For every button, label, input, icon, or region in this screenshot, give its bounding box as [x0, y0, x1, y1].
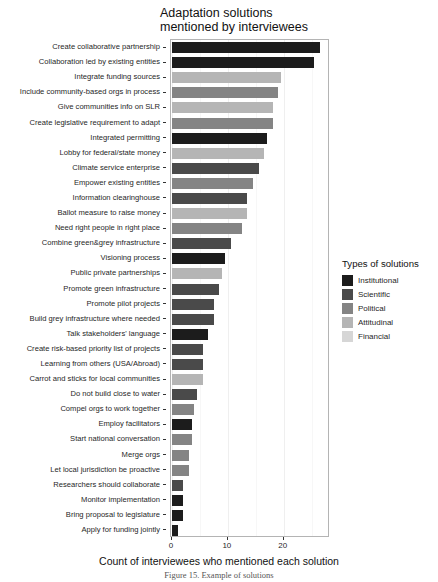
y-axis-tick-label: Create risk-based priority list of proje… [27, 344, 160, 353]
y-axis-tick-mark [163, 363, 166, 364]
bar [172, 404, 194, 415]
y-axis-tick-mark [163, 529, 166, 530]
legend-item: Political [342, 302, 436, 315]
legend-title: Types of solutions [342, 258, 436, 269]
y-axis-tick-mark [163, 243, 166, 244]
y-axis-tick-label: Researchers should collaborate [53, 480, 160, 489]
x-axis-tick-mark [227, 537, 228, 540]
x-axis-tick-label: 20 [278, 541, 287, 550]
y-axis-tick-mark [163, 213, 166, 214]
y-axis-tick-mark [163, 379, 166, 380]
bar [172, 133, 267, 144]
bar [172, 374, 203, 385]
bar [172, 87, 278, 98]
y-axis-tick-label: Need right people in right place [55, 223, 160, 232]
y-axis-tick-label: Include community-based orgs in process [20, 87, 160, 96]
y-axis-tick-label: Lobby for federal/state money [60, 148, 160, 157]
legend-swatch [342, 275, 353, 286]
y-axis-tick-mark [163, 348, 166, 349]
y-axis-tick-label: Monitor implementation [81, 495, 160, 504]
y-axis-tick-mark [163, 92, 166, 93]
chart-title: Adaptation solutions mentioned by interv… [160, 6, 390, 34]
bar [172, 525, 178, 536]
y-axis-tick-label: Build grey infrastructure where needed [30, 314, 160, 323]
legend-item: Attitudinal [342, 316, 436, 329]
legend-label: Attitudinal [358, 318, 393, 327]
y-axis-tick-mark [163, 514, 166, 515]
bar [172, 268, 222, 279]
y-axis-tick-label: Create collaborative partnership [52, 42, 160, 51]
legend-item: Financial [342, 330, 436, 343]
y-axis-tick-label: Talk stakeholders' language [67, 329, 160, 338]
y-axis-tick-label: Learning from others (USA/Abroad) [41, 359, 160, 368]
plot-panel [170, 39, 329, 537]
y-axis-tick-mark [163, 122, 166, 123]
y-axis-tick-mark [163, 47, 166, 48]
legend-swatch [342, 331, 353, 342]
bar [172, 389, 197, 400]
bar [172, 480, 183, 491]
y-axis-tick-mark [163, 409, 166, 410]
y-axis-tick-label: Public private partnerships [71, 268, 160, 277]
y-axis-tick-mark [163, 197, 166, 198]
y-axis-tick-label: Carrot and sticks for local communities [30, 374, 160, 383]
y-axis-tick-mark [163, 454, 166, 455]
y-axis-tick-label: Compel orgs to work together [60, 404, 160, 413]
bars-layer [171, 40, 328, 536]
x-axis-tick-label: 10 [222, 541, 231, 550]
y-axis-tick-mark [163, 273, 166, 274]
bar [172, 72, 281, 83]
legend-item-list: InstitutionalScientificPoliticalAttitudi… [342, 274, 436, 343]
legend-swatch [342, 317, 353, 328]
bar [172, 419, 192, 430]
y-axis-tick-label: Combine green&grey infrastructure [42, 238, 160, 247]
bar [172, 208, 247, 219]
y-axis-tick-mark [163, 484, 166, 485]
bar [172, 465, 189, 476]
legend-label: Scientific [358, 290, 390, 299]
bar [172, 299, 214, 310]
bar [172, 344, 203, 355]
y-axis-tick-mark [163, 152, 166, 153]
bar [172, 253, 225, 264]
y-axis-tick-label: Visioning process [101, 253, 160, 262]
y-axis-tick-mark [163, 469, 166, 470]
y-axis-tick-label: Employ facilitators [98, 419, 160, 428]
y-axis-tick-label: Give communities info on SLR [58, 102, 160, 111]
y-axis-tick-label: Information clearinghouse [73, 193, 160, 202]
y-axis-tick-label: Ballot measure to raise money [57, 208, 160, 217]
y-axis-tick-label: Promote pilot projects [87, 299, 160, 308]
x-axis-tick-mark [171, 537, 172, 540]
y-axis-label-group: Create collaborative partnershipCollabor… [0, 39, 166, 537]
legend-label: Financial [358, 332, 390, 341]
bar [172, 193, 247, 204]
y-axis-tick-label: Climate service enterprise [72, 163, 160, 172]
y-axis-tick-label: Start national conversation [70, 434, 160, 443]
bar [172, 284, 219, 295]
bar [172, 238, 231, 249]
bar [172, 223, 242, 234]
y-axis-tick-label: Empower existing entities [74, 178, 160, 187]
figure-caption: Figure 15. Example of solutions [0, 570, 438, 580]
legend-label: Political [358, 304, 386, 313]
y-axis-tick-mark [163, 228, 166, 229]
bar [172, 495, 183, 506]
x-axis-tick-label: 0 [169, 541, 173, 550]
chart-legend: Types of solutions InstitutionalScientif… [342, 258, 436, 344]
y-axis-tick-mark [163, 77, 166, 78]
bar [172, 510, 183, 521]
legend-item: Institutional [342, 274, 436, 287]
y-axis-tick-mark [163, 394, 166, 395]
y-axis-tick-mark [163, 107, 166, 108]
y-axis-tick-label: Create legislative requirement to adapt [30, 118, 160, 127]
y-axis-tick-mark [163, 303, 166, 304]
bar [172, 314, 214, 325]
y-axis-tick-mark [163, 62, 166, 63]
bar [172, 118, 273, 129]
y-axis-tick-mark [163, 167, 166, 168]
bar [172, 148, 264, 159]
bar [172, 102, 273, 113]
y-axis-tick-mark [163, 333, 166, 334]
bar [172, 57, 314, 68]
y-axis-tick-label: Integrated permitting [90, 133, 160, 142]
